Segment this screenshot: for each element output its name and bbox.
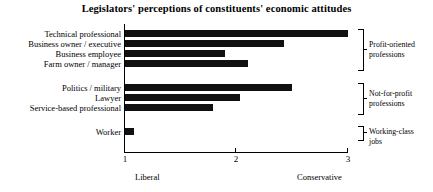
category-label-wrap: Business owner / executive <box>0 40 124 49</box>
group-bracket-not-for-profit <box>358 83 364 115</box>
group-label-line1: Not-for-profit <box>369 89 412 99</box>
chart-container: Legislators' perceptions of constituents… <box>0 0 433 192</box>
x-axis-tick-2 <box>235 148 236 152</box>
group-bracket-profit-oriented <box>358 29 364 71</box>
category-label-wrap: Service-based professional <box>0 104 124 113</box>
x-tick-label-1: 1 <box>115 154 135 164</box>
category-label-wrap: Technical professional <box>0 30 124 39</box>
group-label-line1: Working-class <box>369 127 414 137</box>
category-label-wrap: Business employee <box>0 50 124 59</box>
category-label-worker: Worker <box>4 128 124 137</box>
category-label-technical-professional: Technical professional <box>4 30 124 39</box>
bar-politics-military <box>125 84 292 91</box>
category-label-wrap: Lawyer <box>0 94 124 103</box>
x-axis-line <box>124 152 348 153</box>
group-bracket-working-class <box>358 126 364 141</box>
group-label-working-class: Working-class jobs <box>369 127 414 146</box>
group-label-line1: Profit-oriented <box>369 40 415 50</box>
bar-technical-professional <box>125 30 348 37</box>
category-label-business-owner-executive: Business owner / executive <box>4 40 124 49</box>
axis-pole-label-conservative: Conservative <box>297 172 342 182</box>
category-label-wrap: Farm owner / manager <box>0 60 124 69</box>
category-label-service-based-professional: Service-based professional <box>4 104 124 113</box>
bar-lawyer <box>125 94 240 101</box>
bar-service-based-professional <box>125 104 213 111</box>
x-tick-label-3: 3 <box>338 154 358 164</box>
category-label-wrap: Worker <box>0 128 124 137</box>
bar-business-owner-executive <box>125 40 284 47</box>
category-label-lawyer: Lawyer <box>4 94 124 103</box>
axis-pole-label-liberal: Liberal <box>135 172 160 182</box>
group-bracket-tick-not-for-profit <box>363 98 367 99</box>
bar-farm-owner-manager <box>125 60 248 67</box>
group-label-profit-oriented: Profit-oriented professions <box>369 40 415 59</box>
group-label-line2: professions <box>369 50 415 60</box>
category-label-farm-owner-manager: Farm owner / manager <box>4 60 124 69</box>
group-bracket-tick-working-class <box>363 132 367 133</box>
group-label-not-for-profit: Not-for-profit professions <box>369 89 412 108</box>
category-label-business-employee: Business employee <box>4 50 124 59</box>
group-label-line2: jobs <box>369 137 414 147</box>
group-label-line2: professions <box>369 99 412 109</box>
category-label-politics-military: Politics / military <box>4 84 124 93</box>
x-tick-label-2: 2 <box>226 154 246 164</box>
x-axis-end-cap <box>347 148 348 152</box>
group-bracket-tick-profit-oriented <box>363 49 367 50</box>
category-label-wrap: Politics / military <box>0 84 124 93</box>
chart-title: Legislators' perceptions of constituents… <box>0 3 433 14</box>
bar-worker <box>125 128 134 135</box>
x-axis-start-cap <box>124 148 125 152</box>
y-axis-line <box>124 24 125 152</box>
bar-business-employee <box>125 50 225 57</box>
